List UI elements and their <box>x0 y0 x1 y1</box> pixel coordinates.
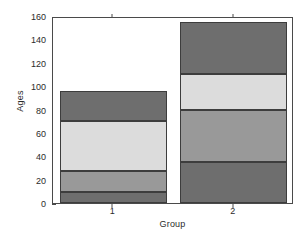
bars-container <box>53 18 292 203</box>
bar-1[interactable] <box>60 16 167 203</box>
x-tick-label: 1 <box>92 206 132 216</box>
bar-segment[interactable] <box>180 74 287 109</box>
bar-2[interactable] <box>180 16 287 203</box>
y-tick-label: 20 <box>12 176 46 186</box>
stacked-bar-chart-figure: Ages Group 020406080100120140160 12 <box>0 0 305 237</box>
y-tick-label: 80 <box>12 106 46 116</box>
bar-segment[interactable] <box>60 171 167 192</box>
bar-segment[interactable] <box>60 192 167 203</box>
bar-segment[interactable] <box>60 91 167 121</box>
y-tick-label: 100 <box>12 82 46 92</box>
y-tick-label: 60 <box>12 129 46 139</box>
bar-segment[interactable] <box>60 121 167 171</box>
y-tick-label: 40 <box>12 152 46 162</box>
y-tick-label: 140 <box>12 35 46 45</box>
y-tick-label: 0 <box>12 199 46 209</box>
bar-segment[interactable] <box>180 22 287 75</box>
y-tick-label: 160 <box>12 12 46 22</box>
x-tick-label: 2 <box>213 206 253 216</box>
y-tick-mark <box>52 204 56 205</box>
bar-segment[interactable] <box>180 110 287 163</box>
bar-segment[interactable] <box>180 162 287 203</box>
y-tick-label: 120 <box>12 59 46 69</box>
plot-area <box>52 17 293 204</box>
x-axis-label: Group <box>52 219 293 229</box>
